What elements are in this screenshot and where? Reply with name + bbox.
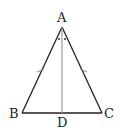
label-c: C (104, 106, 114, 121)
triangle-diagram: A B C D (0, 0, 122, 129)
angle-mark-dac (64, 38, 66, 40)
label-a: A (56, 10, 67, 25)
label-d: D (57, 115, 67, 129)
angle-mark-bad (58, 38, 60, 40)
label-b: B (9, 106, 19, 121)
tick-mark-ac (80, 69, 87, 72)
tick-mark-ab (37, 69, 44, 72)
